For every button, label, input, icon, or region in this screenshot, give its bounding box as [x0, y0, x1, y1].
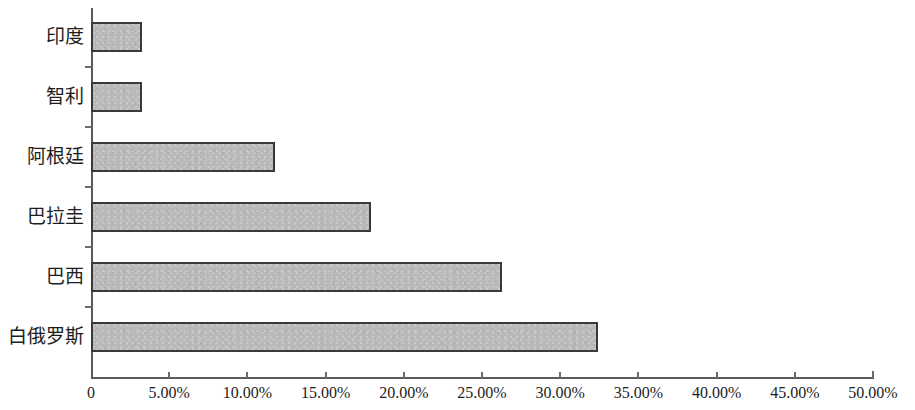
- x-axis-label-5.00%: 5.00%: [149, 383, 190, 403]
- x-axis-label-35.00%: 35.00%: [614, 383, 663, 403]
- x-axis-label-45.00%: 45.00%: [770, 383, 819, 403]
- bar-智利: [91, 82, 142, 112]
- bar-印度: [91, 22, 142, 52]
- y-axis-tick: [85, 246, 92, 248]
- x-axis-tick: [794, 372, 796, 378]
- x-axis-label-20.00%: 20.00%: [379, 383, 428, 403]
- x-axis-label-15.00%: 15.00%: [301, 383, 350, 403]
- y-axis-tick: [85, 126, 92, 128]
- x-axis-label-30.00%: 30.00%: [536, 383, 585, 403]
- y-axis-label-印度: 印度: [0, 26, 84, 48]
- x-axis-tick: [637, 372, 639, 378]
- y-axis-tick: [85, 186, 92, 188]
- bar-白俄罗斯: [91, 322, 598, 352]
- x-axis-label-10.00%: 10.00%: [223, 383, 272, 403]
- y-axis-label-智利: 智利: [0, 86, 84, 108]
- y-axis-tick: [85, 66, 92, 68]
- x-axis-label-0: 0: [87, 383, 95, 403]
- x-axis-tick: [325, 372, 327, 378]
- x-axis-tick: [168, 372, 170, 378]
- x-axis-tick: [403, 372, 405, 378]
- y-axis-label-巴西: 巴西: [0, 266, 84, 288]
- bar-巴西: [91, 262, 502, 292]
- x-axis-tick: [481, 372, 483, 378]
- y-axis-label-白俄罗斯: 白俄罗斯: [0, 326, 84, 348]
- x-axis-tick: [716, 372, 718, 378]
- bar-阿根廷: [91, 142, 275, 172]
- x-axis-label-40.00%: 40.00%: [692, 383, 741, 403]
- y-axis-tick: [85, 306, 92, 308]
- x-axis-tick: [872, 371, 874, 378]
- bar-chart: 印度智利阿根廷巴拉圭巴西白俄罗斯 05.00%10.00%15.00%20.00…: [0, 0, 915, 410]
- y-axis-label-阿根廷: 阿根廷: [0, 146, 84, 168]
- y-axis-label-巴拉圭: 巴拉圭: [0, 206, 84, 228]
- x-axis-tick: [246, 372, 248, 378]
- bar-巴拉圭: [91, 202, 371, 232]
- x-axis-tick: [559, 372, 561, 378]
- x-axis-label-25.00%: 25.00%: [457, 383, 506, 403]
- x-axis-label-50.00%: 50.00%: [848, 383, 897, 403]
